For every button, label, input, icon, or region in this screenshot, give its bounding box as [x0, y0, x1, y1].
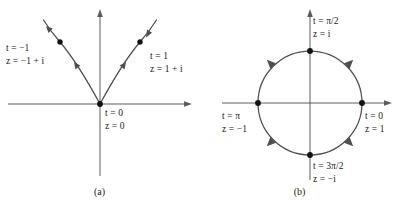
label-a-origin: t = 0 z = 0 [105, 107, 125, 132]
label-b-top: t = π/2 z = i [313, 15, 339, 40]
label-b-bottom-line2: z = −i [313, 173, 343, 186]
point-t-0 [359, 100, 365, 106]
point-t-pi [255, 100, 261, 106]
label-b-right-line2: z = 1 [365, 123, 385, 136]
point-t-0 [97, 101, 103, 107]
panel-a: t = −1 z = −1 + i t = 1 z = 1 + i t = 0 … [0, 0, 199, 207]
caption-panel-a: (a) [0, 186, 199, 197]
point-t-pi-over-2 [307, 48, 313, 54]
direction-arrows-parabola [46, 26, 152, 69]
label-a-left-line1: t = −1 [6, 42, 44, 55]
point-t-minus-1 [57, 39, 62, 44]
label-b-top-line2: z = i [313, 28, 339, 41]
point-t-1 [137, 39, 142, 44]
label-a-right: t = 1 z = 1 + i [150, 50, 183, 75]
caption-panel-b: (b) [200, 186, 399, 197]
label-a-origin-line2: z = 0 [105, 120, 125, 133]
label-a-right-line2: z = 1 + i [150, 63, 183, 76]
label-a-left: t = −1 z = −1 + i [6, 42, 44, 67]
label-b-top-line1: t = π/2 [313, 15, 339, 28]
label-b-bottom: t = 3π/2 z = −i [313, 160, 343, 185]
label-a-right-line1: t = 1 [150, 50, 183, 63]
panel-b-graphic [200, 0, 399, 186]
label-b-left-line1: t = π [222, 110, 247, 123]
label-b-bottom-line1: t = 3π/2 [313, 160, 343, 173]
figure-container: t = −1 z = −1 + i t = 1 z = 1 + i t = 0 … [0, 0, 399, 207]
label-a-origin-line1: t = 0 [105, 107, 125, 120]
panel-b: t = π/2 z = i t = 0 z = 1 t = π z = −1 t… [200, 0, 399, 207]
x-axis [222, 100, 392, 106]
label-b-right-line1: t = 0 [365, 110, 385, 123]
y-axis [97, 9, 103, 176]
point-t-3pi-over-2 [307, 152, 313, 158]
label-b-left-line2: z = −1 [222, 123, 247, 136]
label-b-right: t = 0 z = 1 [365, 110, 385, 135]
panel-a-graphic [0, 0, 199, 186]
label-a-left-line2: z = −1 + i [6, 55, 44, 68]
label-b-left: t = π z = −1 [222, 110, 247, 135]
